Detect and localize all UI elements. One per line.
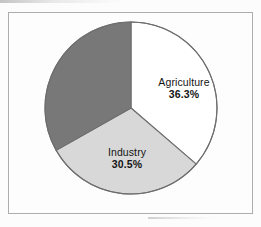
pie-label-agriculture-name: Agriculture (146, 76, 222, 88)
pie-label-agriculture: Agriculture 36.3% (146, 76, 222, 101)
pie-chart-screenshot: Agriculture 36.3% Industry 30.5% (0, 0, 261, 227)
pie-label-industry-name: Industry (94, 146, 160, 158)
pie-label-industry: Industry 30.5% (94, 146, 160, 171)
pie-label-agriculture-value: 36.3% (146, 88, 222, 100)
pie-chart-svg (0, 0, 261, 227)
pie-chart-area (0, 0, 261, 227)
pie-label-industry-value: 30.5% (94, 158, 160, 170)
